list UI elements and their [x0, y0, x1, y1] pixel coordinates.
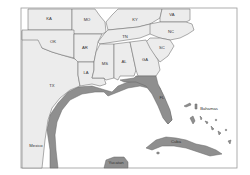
label-north-carolina: NC [168, 29, 174, 34]
label-kentucky: KY [132, 17, 138, 22]
label-tennessee: TN [122, 34, 128, 39]
label-alabama: AL [121, 59, 127, 64]
island-isle-of-youth [157, 152, 160, 154]
label-missouri: MO [84, 17, 91, 22]
label-texas: TX [49, 83, 55, 88]
label-arkansas: AR [82, 45, 88, 50]
label-louisiana: LA [83, 70, 88, 75]
label-oklahoma: OK [50, 39, 56, 44]
label-florida: FL [160, 95, 166, 100]
map-frame: KA MO KY VA OK AR TN NC SC MS AL GA LA T… [0, 0, 250, 175]
state-virginia [160, 9, 190, 22]
label-georgia: GA [142, 57, 148, 62]
label-yucatan: Yucatan [108, 160, 124, 165]
map-svg: KA MO KY VA OK AR TN NC SC MS AL GA LA T… [0, 0, 250, 175]
label-cuba: Cuba [171, 139, 182, 144]
label-kansas: KA [46, 16, 52, 21]
label-mississippi: MS [102, 61, 108, 66]
label-bahamas: Bahamas [200, 106, 218, 111]
label-south-carolina: SC [159, 45, 165, 50]
label-mexico: Mexico [29, 143, 43, 148]
label-virginia: VA [169, 12, 174, 17]
